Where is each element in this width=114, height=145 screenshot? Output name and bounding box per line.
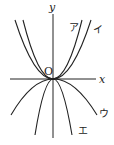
curve-label-u: ウ <box>99 108 109 119</box>
parabola-diagram: y x O ア イ ウ エ <box>0 0 114 145</box>
curve-label-i: イ <box>93 24 103 35</box>
y-axis-label: y <box>48 1 56 14</box>
x-axis-label: x <box>99 73 106 86</box>
curve-label-e: エ <box>78 125 88 136</box>
curve-u <box>11 79 97 115</box>
curve-label-a: ア <box>69 22 79 33</box>
origin-label: O <box>44 65 53 78</box>
